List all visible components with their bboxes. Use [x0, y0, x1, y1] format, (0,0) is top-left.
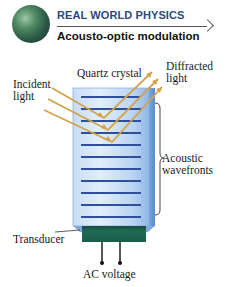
terminal-dot-left [100, 261, 104, 265]
label-incident-light-2: light [13, 90, 34, 102]
label-diffracted-light-2: light [166, 72, 187, 84]
transducer-leader [55, 230, 80, 232]
label-quartz-crystal: Quartz crystal [77, 67, 142, 79]
label-diffracted-light-1: Diffracted [166, 60, 213, 72]
label-incident-light-1: Incident [13, 78, 51, 90]
terminal-dot-right [118, 261, 122, 265]
label-transducer: Transducer [13, 233, 64, 245]
label-acoustic-1: Acoustic [162, 152, 203, 164]
transducer [82, 226, 146, 242]
ac-wires [102, 242, 120, 262]
label-acoustic-2: wavefronts [162, 164, 213, 176]
label-ac-voltage: AC voltage [83, 268, 136, 280]
